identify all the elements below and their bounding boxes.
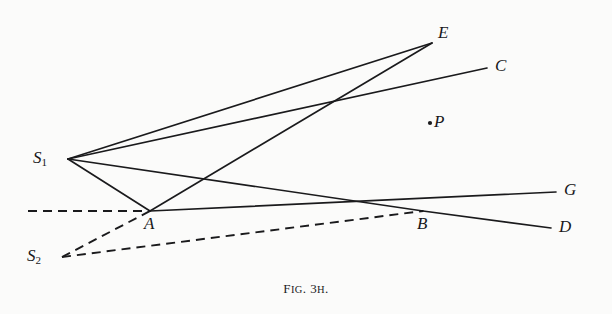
figure-caption: FIG. 3H. bbox=[0, 281, 612, 297]
a-to-e bbox=[150, 43, 432, 211]
b-to-d bbox=[423, 211, 551, 228]
point-label-g: G bbox=[564, 181, 576, 198]
s1-to-b bbox=[68, 159, 423, 211]
point-label-s2: S2 bbox=[27, 247, 41, 264]
s2-to-b bbox=[62, 211, 423, 257]
s1-to-a bbox=[68, 159, 150, 211]
caption-number: . 3 bbox=[303, 281, 317, 296]
caption-fig-ig: IG bbox=[291, 284, 303, 295]
caption-fig-f: F bbox=[283, 281, 291, 296]
point-label-a: A bbox=[144, 215, 154, 232]
caption-period: . bbox=[325, 281, 329, 296]
point-label-d: D bbox=[559, 218, 571, 235]
dashed-line-group bbox=[28, 211, 423, 257]
solid-line-group bbox=[68, 43, 556, 228]
point-label-s2-letter: S bbox=[27, 246, 36, 265]
s1-to-e bbox=[68, 43, 432, 159]
point-label-s2-subscript: 2 bbox=[36, 254, 42, 266]
point-dot-p bbox=[428, 121, 432, 125]
point-label-s1-letter: S bbox=[33, 148, 42, 167]
a-to-g bbox=[150, 192, 556, 211]
caption-letter: H bbox=[317, 284, 325, 295]
point-label-b: B bbox=[417, 215, 427, 232]
point-label-e: E bbox=[438, 24, 448, 41]
ray-diagram bbox=[0, 0, 612, 314]
point-label-c: C bbox=[495, 57, 506, 74]
point-dot-group bbox=[428, 121, 432, 125]
point-label-s1: S1 bbox=[33, 149, 47, 166]
figure-container: S1 S2 A B P C D E G FIG. 3H. bbox=[0, 0, 612, 314]
point-label-s1-subscript: 1 bbox=[42, 156, 48, 168]
point-label-p: P bbox=[434, 113, 444, 130]
s2-to-a bbox=[62, 211, 150, 257]
s1-to-c bbox=[68, 68, 487, 159]
